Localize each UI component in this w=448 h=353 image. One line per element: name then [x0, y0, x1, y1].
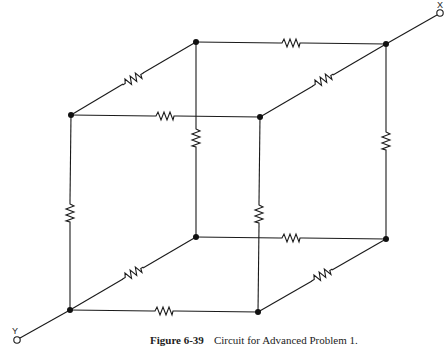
- terminal-x-label: X: [437, 0, 443, 10]
- figure-number: Figure 6-39: [150, 334, 204, 346]
- back-right-edge: [382, 44, 390, 239]
- terminal-y-lead: [20, 310, 70, 338]
- node-back-bottom-left: [193, 234, 199, 240]
- top-left-diagonal: [71, 42, 196, 115]
- node-back-top-right: [383, 41, 389, 47]
- front-left-edge: [66, 115, 74, 310]
- top-right-diagonal: [260, 44, 386, 117]
- terminal-x: [437, 10, 443, 16]
- resistor-cube-diagram: X Y: [0, 0, 448, 353]
- back-top-edge: [196, 39, 386, 47]
- back-left-edge: [192, 42, 200, 237]
- terminal-y: [14, 337, 20, 343]
- bottom-left-diagonal: [70, 237, 196, 310]
- node-back-bottom-right: [383, 236, 389, 242]
- node-front-bottom-right: [255, 309, 261, 315]
- node-back-top-left: [193, 39, 199, 45]
- node-front-top-right: [257, 114, 263, 120]
- node-front-top-left: [68, 112, 74, 118]
- bottom-right-diagonal: [258, 239, 386, 312]
- terminal-y-label: Y: [12, 326, 18, 336]
- figure-title: Circuit for Advanced Problem 1.: [214, 334, 358, 346]
- back-bottom-edge: [196, 234, 386, 242]
- front-bottom-edge: [70, 307, 258, 315]
- node-front-bottom-left: [67, 307, 73, 313]
- figure-caption: Figure 6-39Circuit for Advanced Problem …: [150, 334, 358, 346]
- terminal-x-lead: [386, 15, 437, 44]
- front-top-edge: [71, 112, 260, 120]
- front-right-edge: [255, 117, 263, 312]
